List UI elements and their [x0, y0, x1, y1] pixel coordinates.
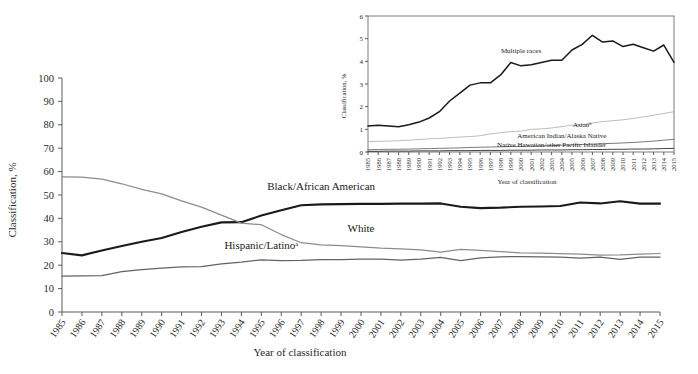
inset-x-tick-label: 1985	[364, 158, 371, 171]
inset-x-tick-label: 1989	[405, 158, 412, 171]
figure-root: 0102030405060708090100 19851986198719881…	[0, 0, 698, 374]
inset-x-tick-label: 1997	[487, 157, 494, 171]
main-y-tick-label: 20	[44, 260, 55, 271]
inset-x-axis-title: Year of classification	[497, 178, 557, 186]
inset-x-tick-label: 2010	[619, 158, 626, 171]
inset-y-tick-label: 3	[360, 81, 364, 89]
inset-x-tick-label: 2013	[650, 158, 657, 171]
inset-x-tick-label: 2014	[660, 157, 667, 171]
inset-x-tick-label: 2003	[548, 158, 555, 171]
inset-x-tick-label: 2004	[558, 157, 565, 171]
inset-x-tick-label: 1990	[415, 158, 422, 171]
inset-x-tick-label: 1998	[497, 158, 504, 171]
inset-x-tick-label: 1996	[477, 157, 484, 171]
series-label: Black/African American	[267, 180, 375, 192]
inset-y-tick-label: 1	[360, 126, 364, 134]
main-y-tick-label: 60	[44, 166, 55, 177]
inset-y-tick-label: 5	[360, 35, 364, 43]
inset-x-tick-label: 2011	[630, 158, 637, 171]
main-y-tick-label: 90	[44, 96, 55, 107]
main-y-tick-label: 0	[49, 307, 54, 318]
inset-x-tick-label: 2005	[568, 158, 575, 171]
inset-y-tick-label: 2	[360, 103, 364, 111]
main-y-tick-label: 10	[44, 283, 55, 294]
inset-y-tick-label: 0	[360, 149, 364, 157]
main-y-tick-label: 70	[44, 143, 55, 154]
inset-x-tick-label: 2015	[670, 158, 677, 171]
inset-x-tick-label: 1988	[395, 158, 402, 171]
inset-y-axis-title: Classification, %	[340, 73, 347, 118]
inset-x-tick-label: 2012	[640, 158, 647, 171]
inset-x-tick-label: 1986	[375, 157, 382, 171]
inset-x-tick-label: 2007	[589, 157, 596, 171]
main-y-tick-label: 100	[38, 73, 54, 84]
inset-x-tick-label: 2002	[538, 158, 545, 171]
inset-x-tick-label: 2009	[609, 158, 616, 171]
inset-y-tick-label: 4	[360, 58, 364, 66]
inset-x-tick-label: 1987	[385, 157, 392, 171]
inset-x-tick-label: 2000	[517, 158, 524, 171]
main-y-tick-label: 40	[44, 213, 55, 224]
main-x-axis-title: Year of classification	[254, 346, 347, 358]
race-classification-line-chart: 0102030405060708090100 19851986198719881…	[0, 0, 698, 374]
inset-x-tick-label: 1991	[426, 158, 433, 171]
inset-x-tick-label: 2001	[528, 158, 535, 171]
series-label: Hispanic/Latinoᵃ	[224, 239, 298, 251]
inset-y-tick-label: 6	[360, 13, 364, 21]
inset-x-tick-label: 1999	[507, 158, 514, 171]
inset-series-label: American Indian/Alaska Native	[517, 132, 606, 140]
inset-x-tick-label: 1993	[446, 158, 453, 171]
inset-series-label: Multiple races	[501, 47, 542, 55]
inset-x-tick-label: 1992	[436, 158, 443, 171]
series-label: White	[348, 222, 375, 234]
main-y-tick-label: 30	[44, 236, 55, 247]
inset-series-label: Asianᵇ	[573, 121, 592, 129]
inset-x-tick-label: 2006	[579, 157, 586, 171]
inset-series-label: Native Hawaiian/other Pacific Islander	[497, 141, 607, 149]
inset-x-tick-label: 2008	[599, 158, 606, 171]
main-y-axis-title: Classification, %	[6, 162, 18, 237]
main-y-tick-label: 80	[44, 119, 55, 130]
inset-x-tick-label: 1994	[456, 157, 463, 171]
main-y-tick-label: 50	[44, 190, 55, 201]
inset-x-tick-label: 1995	[466, 158, 473, 171]
